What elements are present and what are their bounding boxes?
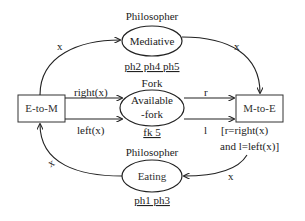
arc-e-to-m-left-to-fork: left(x): [65, 119, 122, 137]
place-eating[interactable]: Philosopher Eating ph1 ph3: [122, 146, 182, 206]
arc-label-x: x: [234, 40, 240, 52]
transition-e-to-m[interactable]: E-to-M: [18, 95, 65, 122]
arc-label-r: r: [204, 86, 208, 98]
arc-m-to-e-to-eating: x: [184, 155, 247, 182]
place-available-fork[interactable]: Fork Available -fork fk 5: [120, 77, 184, 138]
arc-label-left: left(x): [77, 124, 105, 137]
arc-label-x: x: [57, 40, 63, 52]
arc-fork-r-to-m-to-e: r: [184, 86, 234, 98]
arc-label-l: l: [204, 124, 207, 136]
place-fork-label-line1: Available: [131, 94, 173, 106]
transition-m-to-e-label: M-to-E: [243, 102, 276, 114]
arc-label-x: x: [228, 170, 234, 182]
place-fork-title: Fork: [142, 77, 163, 89]
place-fork-tokens: fk 5: [143, 126, 161, 138]
place-fork-label-line2: -fork: [141, 108, 163, 120]
transition-e-to-m-label: E-to-M: [25, 102, 58, 114]
place-eating-label: Eating: [138, 170, 167, 182]
petri-net-diagram: E-to-M M-to-E Philosopher Mediative ph2 …: [0, 0, 305, 221]
guard-line-2: and l=left(x)]: [220, 140, 279, 153]
arc-e-to-m-right-to-fork: right(x): [65, 86, 122, 99]
place-mediative[interactable]: Philosopher Mediative ph2 ph4 ph5: [122, 10, 182, 72]
guard-line-1: [r=right(x): [221, 124, 268, 137]
place-eating-title: Philosopher: [126, 146, 179, 158]
arc-label-right: right(x): [74, 86, 108, 99]
transition-m-to-e[interactable]: M-to-E: [236, 95, 283, 122]
place-eating-tokens: ph1 ph3: [134, 194, 170, 206]
guard-condition: [r=right(x) and l=left(x)]: [220, 124, 279, 153]
arc-mediative-to-m-to-e: x: [182, 37, 260, 93]
place-mediative-tokens: ph2 ph4 ph5: [125, 60, 181, 72]
place-mediative-title: Philosopher: [126, 10, 179, 22]
place-mediative-label: Mediative: [130, 35, 175, 47]
arc-label-x: x: [46, 156, 57, 169]
